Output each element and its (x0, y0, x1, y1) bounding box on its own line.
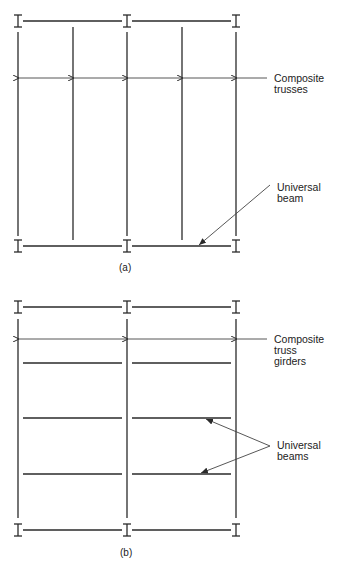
leader-arrow (199, 185, 270, 245)
panel-b (14, 301, 270, 536)
caption-a: (a) (119, 262, 131, 273)
column-i-section-icon (123, 301, 131, 313)
column-i-section-icon (123, 15, 131, 27)
label-universal-beam: Universal beam (277, 182, 321, 204)
label-composite-trusses: Composite trusses (274, 73, 324, 95)
column-i-section-icon (14, 301, 22, 313)
column-i-section-icon (232, 524, 240, 536)
column-i-section-icon (14, 524, 22, 536)
column-i-section-icon (232, 301, 240, 313)
column-i-section-icon (14, 15, 22, 27)
column-i-section-icon (232, 15, 240, 27)
column-i-section-icon (123, 240, 131, 252)
label-composite-truss-girders: Composite truss girders (274, 334, 324, 367)
column-i-section-icon (14, 240, 22, 252)
column-i-section-icon (123, 524, 131, 536)
column-i-section-icon (232, 240, 240, 252)
panel-a (14, 15, 270, 252)
leader-arrow (206, 419, 270, 446)
label-universal-beams: Universal beams (277, 440, 321, 462)
caption-b: (b) (120, 547, 132, 558)
